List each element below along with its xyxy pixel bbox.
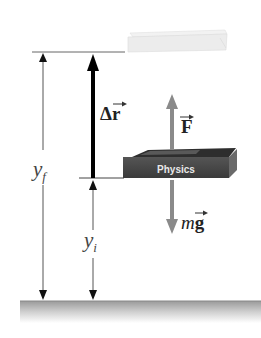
book-title: Physics [157, 164, 195, 175]
displacement-arrow [87, 54, 99, 178]
arrowhead-up-icon [89, 180, 97, 190]
y-initial-label: yi [82, 228, 97, 255]
gravity-label: mg [181, 212, 205, 233]
work-diagram: yf Δr yi Physics F mg [0, 0, 261, 338]
ground [20, 301, 261, 323]
physics-book: Physics [123, 148, 237, 178]
arrowhead-up-icon [87, 54, 99, 71]
arrowhead-down-icon [89, 290, 97, 300]
y-final-label: yf [31, 157, 48, 184]
arrowhead-up-icon [166, 94, 178, 109]
arrowhead-up-icon [39, 53, 47, 62]
displacement-label: Δr [100, 103, 121, 124]
arrowhead-down-icon [39, 290, 47, 300]
arrowhead-down-icon [166, 219, 178, 234]
force-label: F [181, 116, 193, 137]
applied-force-arrow [166, 94, 178, 150]
faded-book-final [128, 30, 227, 52]
gravity-force-arrow [166, 180, 178, 234]
